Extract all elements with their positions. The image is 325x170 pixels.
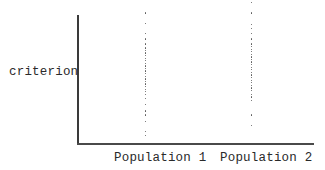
data-point	[145, 73, 146, 74]
data-point	[145, 33, 146, 34]
data-point	[145, 121, 146, 122]
data-point	[251, 80, 252, 81]
category-label-population-1: Population 1	[114, 151, 206, 165]
data-point	[251, 72, 252, 73]
data-point	[251, 114, 252, 115]
data-point	[251, 28, 252, 29]
data-point	[145, 78, 146, 79]
data-point	[251, 2, 252, 3]
data-point	[145, 98, 146, 99]
data-point	[251, 77, 252, 78]
data-point	[251, 59, 252, 60]
data-point	[145, 110, 146, 111]
category-label-population-2: Population 2	[220, 151, 312, 165]
data-point	[145, 50, 146, 51]
data-point	[145, 47, 146, 48]
data-point	[251, 54, 252, 55]
data-point	[145, 58, 146, 59]
x-axis	[77, 143, 314, 145]
data-point	[145, 104, 146, 105]
data-point	[145, 68, 146, 69]
data-point	[145, 38, 146, 39]
strip-plot-figure: criterion Population 1 Population 2	[0, 0, 325, 170]
data-point	[145, 55, 146, 56]
data-point	[251, 100, 252, 101]
data-point	[145, 86, 146, 87]
data-point	[145, 94, 146, 95]
data-point	[251, 85, 252, 86]
data-point	[145, 114, 146, 115]
data-point	[145, 63, 146, 64]
data-point	[145, 43, 146, 44]
data-point	[251, 67, 252, 68]
data-point	[145, 91, 146, 92]
data-point	[145, 70, 146, 71]
data-point	[251, 94, 252, 95]
data-point	[251, 125, 252, 126]
data-point	[145, 23, 146, 24]
data-point	[145, 65, 146, 66]
data-point	[251, 74, 252, 75]
y-axis	[77, 15, 79, 145]
data-point	[145, 83, 146, 84]
data-point	[251, 43, 252, 44]
data-point	[145, 135, 146, 136]
data-point	[251, 49, 252, 50]
data-point	[145, 76, 146, 77]
data-point	[251, 33, 252, 34]
data-point	[145, 12, 146, 13]
data-point	[145, 89, 146, 90]
data-point	[251, 56, 252, 57]
data-point	[145, 60, 146, 61]
data-point	[145, 81, 146, 82]
data-point	[251, 61, 252, 62]
data-point	[145, 131, 146, 132]
data-point	[251, 12, 252, 13]
data-point	[251, 87, 252, 88]
data-point	[251, 51, 252, 52]
data-point	[251, 64, 252, 65]
data-point	[251, 46, 252, 47]
data-point	[251, 96, 252, 97]
data-point	[251, 38, 252, 39]
data-point	[251, 24, 252, 25]
data-point	[251, 90, 252, 91]
data-point	[251, 69, 252, 70]
data-point	[251, 82, 252, 83]
y-axis-label: criterion	[9, 65, 78, 79]
data-point	[145, 52, 146, 53]
